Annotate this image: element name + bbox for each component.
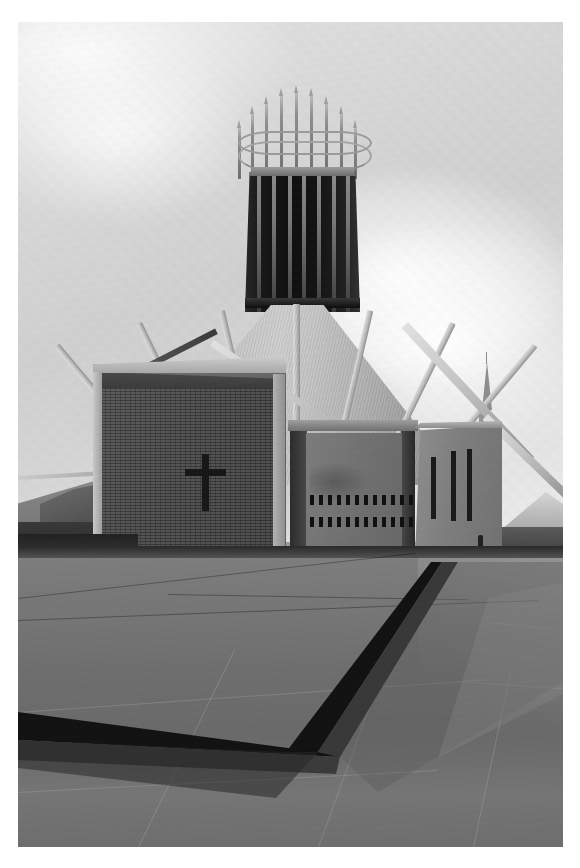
step-shadow-shape <box>18 562 563 847</box>
photo-page <box>0 0 580 868</box>
photograph <box>18 22 563 847</box>
diagonal-step-shadow <box>18 562 563 847</box>
